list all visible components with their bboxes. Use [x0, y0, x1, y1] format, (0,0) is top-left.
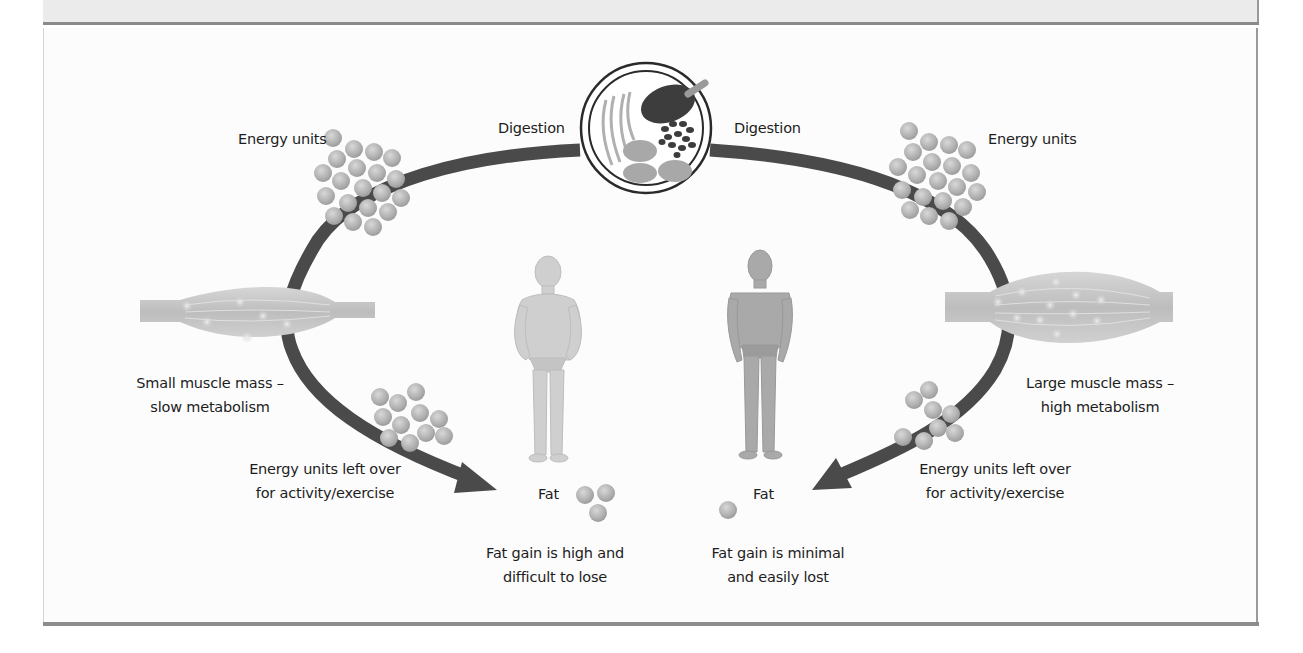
small-muscle-icon	[140, 287, 375, 343]
right-leftover-units	[894, 381, 964, 450]
right-digestion-label: Digestion	[734, 116, 801, 140]
right-fat-units	[719, 501, 737, 519]
left-leftover-label-line1: Energy units left over	[225, 457, 425, 481]
left-fat-label: Fat	[538, 482, 559, 506]
large-muscle-label-line1: Large muscle mass –	[1010, 371, 1190, 395]
small-muscle-label: Small muscle mass – slow metabolism	[125, 371, 295, 419]
left-energy-units	[314, 129, 410, 236]
left-outcome-line2: difficult to lose	[465, 565, 645, 589]
food-plate-icon	[581, 63, 711, 193]
right-outcome-line2: and easily lost	[688, 565, 868, 589]
muscular-person-icon	[728, 250, 793, 459]
overweight-person-icon	[515, 256, 582, 462]
left-energy-units-label: Energy units	[238, 127, 327, 151]
right-leftover-label-line1: Energy units left over	[895, 457, 1095, 481]
small-muscle-label-line2: slow metabolism	[125, 395, 295, 419]
right-outcome-line1: Fat gain is minimal	[688, 541, 868, 565]
diagram-artwork	[0, 0, 1303, 653]
left-outcome-label: Fat gain is high and difficult to lose	[465, 541, 645, 589]
left-leftover-units	[371, 383, 453, 452]
right-leftover-label-line2: for activity/exercise	[895, 481, 1095, 505]
right-leftover-label: Energy units left over for activity/exer…	[895, 457, 1095, 505]
large-muscle-icon	[945, 272, 1173, 343]
left-outcome-line1: Fat gain is high and	[465, 541, 645, 565]
left-digestion-label: Digestion	[498, 116, 565, 140]
right-fat-label: Fat	[753, 482, 774, 506]
right-energy-units	[889, 122, 986, 230]
small-muscle-label-line1: Small muscle mass –	[125, 371, 295, 395]
left-leftover-label-line2: for activity/exercise	[225, 481, 425, 505]
right-energy-units-label: Energy units	[988, 127, 1077, 151]
right-outcome-label: Fat gain is minimal and easily lost	[688, 541, 868, 589]
large-muscle-label-line2: high metabolism	[1010, 395, 1190, 419]
left-leftover-label: Energy units left over for activity/exer…	[225, 457, 425, 505]
large-muscle-label: Large muscle mass – high metabolism	[1010, 371, 1190, 419]
left-fat-units	[576, 484, 615, 522]
